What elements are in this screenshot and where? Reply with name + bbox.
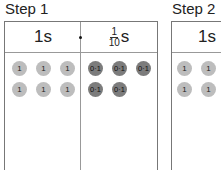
ones-column: 1s 1 1 1 1 [172, 22, 221, 170]
tenths-column-body: 0·1 0·1 0·1 0·1 0·1 [81, 53, 157, 170]
step-1-place-value-chart: 1s 1 1 1 1 1 1 1 10 s 0·1 0·1 0·1 0·1 0·… [4, 21, 158, 170]
tenths-column-header: 1 10 s [81, 22, 157, 53]
ones-counter: 1 [201, 61, 216, 76]
fraction-one-tenth: 1 10 [109, 27, 120, 48]
tenths-column: 1 10 s 0·1 0·1 0·1 0·1 0·1 [81, 22, 157, 170]
step-2-place-value-chart: 1s 1 1 1 1 [171, 21, 221, 170]
step-2-title: Step 2 [172, 0, 215, 18]
ones-counter: 1 [177, 82, 192, 97]
ones-counter: 1 [177, 61, 192, 76]
tenths-counter: 0·1 [136, 61, 151, 76]
ones-counter: 1 [201, 82, 216, 97]
ones-counter: 1 [36, 61, 51, 76]
ones-column: 1s 1 1 1 1 1 1 [5, 22, 81, 170]
tenths-counter: 0·1 [88, 82, 103, 97]
tenths-counter: 0·1 [112, 82, 127, 97]
tenths-unit: s [121, 27, 130, 47]
ones-counter: 1 [60, 82, 75, 97]
ones-column-header: 1s [172, 22, 221, 53]
tenths-counter: 0·1 [112, 61, 127, 76]
ones-counter: 1 [12, 82, 27, 97]
ones-counter: 1 [60, 61, 75, 76]
ones-column-body: 1 1 1 1 1 1 [5, 53, 81, 170]
tenths-counter: 0·1 [88, 61, 103, 76]
step-1-title: Step 1 [5, 0, 48, 18]
ones-column-body: 1 1 1 1 [172, 53, 221, 170]
ones-counter: 1 [12, 61, 27, 76]
ones-column-header: 1s [5, 22, 81, 53]
ones-counter: 1 [36, 82, 51, 97]
